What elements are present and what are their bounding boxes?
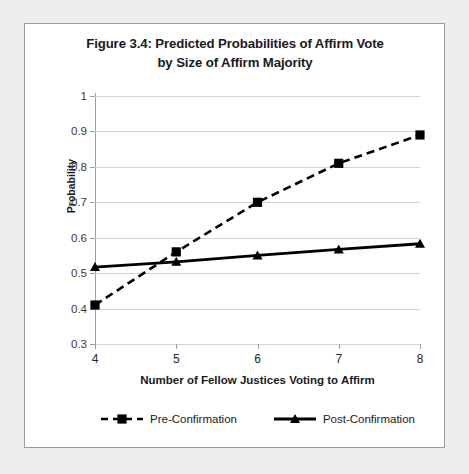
- y-axis-tick-label: 0.7: [71, 196, 87, 208]
- y-axis-tick-label: 0.9: [71, 125, 87, 137]
- x-axis-tick-mark: [339, 344, 340, 349]
- x-axis-tick-mark: [95, 344, 96, 349]
- y-axis-tick-label: 0.3: [71, 338, 87, 350]
- x-axis-tick-label: 8: [417, 352, 424, 366]
- y-axis-tick-label: 1: [81, 90, 87, 102]
- data-point-marker: [334, 159, 343, 168]
- data-point-marker: [90, 300, 99, 309]
- y-axis-tick-label: 0.6: [71, 232, 87, 244]
- series-line: [95, 135, 420, 305]
- data-point-marker: [415, 130, 424, 139]
- legend-item-label: Post-Confirmation: [323, 413, 415, 425]
- y-axis-tick-label: 0.8: [71, 161, 87, 173]
- legend-swatch-square-icon: [100, 412, 144, 426]
- data-point-marker: [253, 198, 262, 207]
- x-axis-tick-label: 5: [173, 352, 180, 366]
- x-axis-tick-label: 7: [335, 352, 342, 366]
- data-point-marker: [172, 247, 181, 256]
- chart-title: Figure 3.4: Predicted Probabilities of A…: [60, 34, 410, 72]
- series-layer: [95, 96, 420, 344]
- x-axis-tick-mark: [420, 344, 421, 349]
- chart-title-line-1: Figure 3.4: Predicted Probabilities of A…: [60, 34, 410, 53]
- y-axis-tick-label: 0.5: [71, 267, 87, 279]
- x-axis-tick-label: 4: [92, 352, 99, 366]
- legend-item-label: Pre-Confirmation: [150, 413, 237, 425]
- x-axis-tick-label: 6: [254, 352, 261, 366]
- series-post-confirmation: [90, 239, 425, 271]
- chart-title-line-2: by Size of Affirm Majority: [60, 53, 410, 72]
- y-axis-tick-label: 0.4: [71, 303, 87, 315]
- x-axis-tick-mark: [258, 344, 259, 349]
- legend-swatch-triangle-icon: [273, 412, 317, 426]
- plot-area: 0.30.40.50.60.70.80.91 45678: [95, 96, 420, 344]
- chart-legend: Pre-ConfirmationPost-Confirmation: [95, 412, 420, 426]
- series-pre-confirmation: [90, 130, 424, 309]
- legend-item[interactable]: Pre-Confirmation: [100, 412, 237, 426]
- x-axis-title: Number of Fellow Justices Voting to Affi…: [95, 374, 420, 386]
- legend-item[interactable]: Post-Confirmation: [273, 412, 415, 426]
- figure-chart: Figure 3.4: Predicted Probabilities of A…: [0, 0, 469, 474]
- x-axis-tick-mark: [176, 344, 177, 349]
